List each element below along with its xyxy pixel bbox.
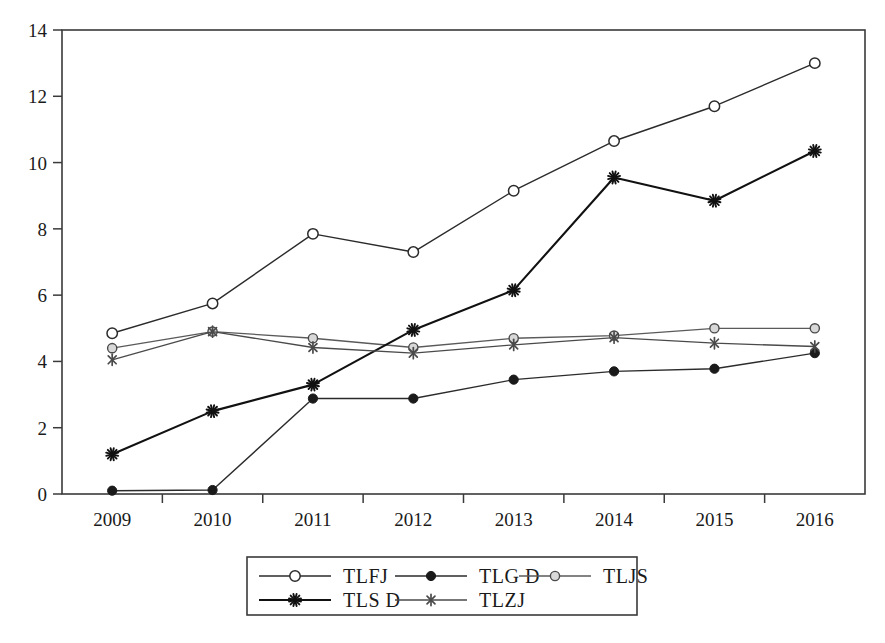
legend-label: TLZJ bbox=[479, 589, 525, 611]
filled-circle-marker bbox=[609, 367, 618, 376]
data-point bbox=[710, 364, 719, 373]
filled-circle-marker bbox=[108, 486, 117, 495]
data-point bbox=[810, 324, 819, 333]
data-point bbox=[208, 485, 217, 494]
gray-circle-marker bbox=[810, 324, 819, 333]
open-circle-marker bbox=[810, 58, 820, 68]
chart-legend: TLFJTLG DTLJSTLS DTLZJ bbox=[247, 557, 648, 615]
x-axis-tick-label: 2016 bbox=[796, 509, 834, 530]
y-axis-tick-label: 4 bbox=[38, 351, 48, 372]
legend-swatch-marker bbox=[550, 571, 559, 580]
y-axis-tick-label: 6 bbox=[38, 285, 48, 306]
x-axis-labels: 20092010201120122013201420152016 bbox=[93, 509, 834, 530]
data-point bbox=[810, 58, 820, 68]
y-axis-tick-label: 14 bbox=[28, 20, 48, 41]
legend-border bbox=[247, 557, 637, 615]
open-circle-marker bbox=[408, 247, 418, 257]
gray-circle-marker bbox=[108, 344, 117, 353]
y-axis-tick-label: 2 bbox=[38, 418, 48, 439]
gray-circle-marker bbox=[550, 571, 559, 580]
y-axis-tick-label: 8 bbox=[38, 219, 48, 240]
filled-circle-marker bbox=[509, 375, 518, 384]
filled-circle-marker bbox=[710, 364, 719, 373]
data-point bbox=[308, 229, 318, 239]
y-axis-tick-label: 0 bbox=[38, 484, 48, 505]
y-axis-tick-label: 12 bbox=[28, 86, 47, 107]
x-axis-tick-label: 2015 bbox=[695, 509, 733, 530]
data-point bbox=[108, 344, 117, 353]
x-axis-tick-label: 2009 bbox=[93, 509, 131, 530]
y-axis-tick-label: 10 bbox=[28, 153, 47, 174]
x-axis-ticks bbox=[162, 494, 764, 503]
filled-circle-marker bbox=[426, 571, 435, 580]
data-point bbox=[409, 394, 418, 403]
data-point bbox=[308, 394, 317, 403]
x-axis-tick-label: 2014 bbox=[595, 509, 634, 530]
data-point bbox=[408, 247, 418, 257]
filled-circle-marker bbox=[208, 485, 217, 494]
data-point bbox=[508, 186, 518, 196]
y-axis-ticks bbox=[53, 30, 62, 494]
gray-circle-marker bbox=[710, 324, 719, 333]
open-circle-marker bbox=[290, 571, 300, 581]
data-point bbox=[710, 324, 719, 333]
open-circle-marker bbox=[609, 136, 619, 146]
legend-label: TLFJ bbox=[343, 565, 388, 587]
legend-swatch-marker bbox=[426, 571, 435, 580]
x-axis-tick-label: 2011 bbox=[294, 509, 331, 530]
line-chart: 02468101214 2009201020112012201320142015… bbox=[0, 0, 885, 643]
legend-label: TLS D bbox=[343, 589, 401, 611]
open-circle-marker bbox=[207, 298, 217, 308]
x-axis-tick-label: 2012 bbox=[394, 509, 432, 530]
data-point bbox=[609, 136, 619, 146]
x-axis-tick-label: 2013 bbox=[495, 509, 533, 530]
data-point bbox=[207, 298, 217, 308]
data-point bbox=[509, 375, 518, 384]
legend-swatch-marker bbox=[290, 571, 300, 581]
filled-circle-marker bbox=[409, 394, 418, 403]
open-circle-marker bbox=[308, 229, 318, 239]
x-axis-tick-label: 2010 bbox=[194, 509, 232, 530]
data-point bbox=[709, 101, 719, 111]
open-circle-marker bbox=[107, 328, 117, 338]
data-point bbox=[107, 328, 117, 338]
chart-canvas: 02468101214 2009201020112012201320142015… bbox=[0, 0, 885, 643]
filled-circle-marker bbox=[308, 394, 317, 403]
y-axis-labels: 02468101214 bbox=[28, 20, 48, 505]
legend-label: TLJS bbox=[603, 565, 648, 587]
open-circle-marker bbox=[508, 186, 518, 196]
data-point bbox=[609, 367, 618, 376]
open-circle-marker bbox=[709, 101, 719, 111]
data-point bbox=[108, 486, 117, 495]
